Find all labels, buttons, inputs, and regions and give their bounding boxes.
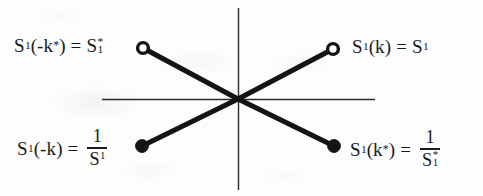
bl-equals: = xyxy=(68,139,79,158)
br-arg-open: (k xyxy=(367,140,383,159)
br-equals: = xyxy=(400,140,411,159)
segment-lower-left-to-origin xyxy=(142,99,238,146)
tl-arg-open: (-k xyxy=(31,36,53,55)
bl-lhs-s: S xyxy=(17,139,28,158)
segment-origin-to-lower-right xyxy=(238,99,334,146)
tl-arg-close: ) xyxy=(59,36,65,55)
tl-rhs-star-sub-stack: *1 xyxy=(98,36,104,54)
segment-upper-left-to-origin xyxy=(143,48,238,99)
tl-rhs-s: S xyxy=(86,36,97,55)
expression-top-left: S1(-k*) = S*1 xyxy=(14,36,103,55)
tr-rhs-s: S xyxy=(412,37,423,56)
bl-fraction: 1 S1 xyxy=(87,127,107,169)
br-denominator: S*1 xyxy=(420,150,440,170)
marker-filled-lower-right xyxy=(328,140,341,153)
tr-arg: (k) xyxy=(369,37,391,56)
tl-rhs-subscript: 1 xyxy=(98,44,104,54)
label-bottom-right: S1(k*) = 1 S*1 xyxy=(350,129,440,171)
bl-numerator: 1 xyxy=(91,127,104,147)
br-numerator: 1 xyxy=(423,128,436,148)
tr-equals: = xyxy=(396,37,407,56)
bl-den-subscript: 1 xyxy=(100,150,106,161)
marker-open-upper-left xyxy=(138,43,149,54)
expression-bottom-left: S1(-k) = 1 S1 xyxy=(17,128,107,170)
expression-top-right: S1(k) = S1 xyxy=(352,37,429,56)
bl-arg: (-k) xyxy=(34,139,63,158)
label-top-right: S1(k) = S1 xyxy=(352,37,429,56)
expression-bottom-right: S1(k*) = 1 S*1 xyxy=(350,129,440,171)
diagram-canvas: S1(-k*) = S*1 S1(k) = S1 S1(-k) = 1 S1 S… xyxy=(0,0,483,196)
segment-origin-to-upper-right xyxy=(238,49,333,99)
marker-filled-lower-left xyxy=(136,140,149,153)
br-lhs-s: S xyxy=(350,140,361,159)
tl-equals: = xyxy=(71,36,82,55)
br-den-s: S xyxy=(422,151,432,170)
marker-open-upper-right xyxy=(328,44,339,55)
tr-lhs-s: S xyxy=(352,37,363,56)
br-den-subscript: 1 xyxy=(433,158,439,168)
bl-denominator: S1 xyxy=(87,149,107,169)
tr-rhs-subscript: 1 xyxy=(423,41,429,52)
label-top-left: S1(-k*) = S*1 xyxy=(14,36,103,55)
br-den-star-sub-stack: *1 xyxy=(433,150,439,167)
bl-den-s: S xyxy=(89,150,99,169)
br-fraction: 1 S*1 xyxy=(420,128,440,170)
br-arg-close: ) xyxy=(389,140,395,159)
tl-lhs-s: S xyxy=(14,36,25,55)
label-bottom-left: S1(-k) = 1 S1 xyxy=(17,128,107,170)
